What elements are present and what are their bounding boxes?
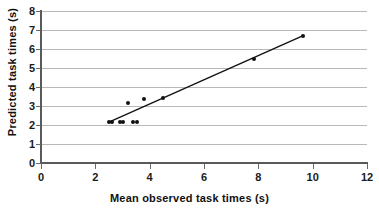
y-axis-tick-label: 4 bbox=[21, 82, 35, 93]
y-axis-tick-label: 1 bbox=[21, 139, 35, 150]
gridline bbox=[41, 30, 367, 31]
y-axis-title: Predicted task times (s) bbox=[6, 0, 18, 147]
x-axis-tick bbox=[150, 164, 151, 169]
y-axis-tick bbox=[36, 49, 41, 50]
y-axis-tick bbox=[36, 68, 41, 69]
scatter-chart: 012345678 024681012 Mean observed task t… bbox=[0, 0, 379, 213]
x-axis-tick bbox=[95, 164, 96, 169]
x-axis-tick-label: 10 bbox=[303, 172, 323, 183]
y-axis-tick bbox=[36, 144, 41, 145]
gridline bbox=[41, 49, 367, 50]
plot-area bbox=[41, 11, 367, 163]
y-axis-tick bbox=[36, 30, 41, 31]
x-axis-tick-label: 12 bbox=[357, 172, 377, 183]
y-axis-tick bbox=[36, 87, 41, 88]
data-point bbox=[252, 57, 256, 61]
x-axis-tick-label: 8 bbox=[248, 172, 268, 183]
y-axis-tick bbox=[36, 106, 41, 107]
gridline bbox=[41, 144, 367, 145]
x-axis-title: Mean observed task times (s) bbox=[0, 192, 379, 204]
x-axis-tick-label: 4 bbox=[140, 172, 160, 183]
gridline bbox=[41, 106, 367, 107]
y-axis-tick-label: 3 bbox=[21, 101, 35, 112]
x-axis-tick bbox=[204, 164, 205, 169]
data-point bbox=[301, 34, 305, 38]
x-axis-tick bbox=[367, 164, 368, 169]
y-axis-tick-label: 6 bbox=[21, 44, 35, 55]
y-axis-tick bbox=[36, 11, 41, 12]
x-axis-tick-label: 0 bbox=[31, 172, 51, 183]
gridline bbox=[41, 87, 367, 88]
x-axis-tick-label: 6 bbox=[194, 172, 214, 183]
x-axis-tick bbox=[313, 164, 314, 169]
y-axis-tick-label: 8 bbox=[21, 6, 35, 17]
y-axis-tick-label: 5 bbox=[21, 63, 35, 74]
gridline bbox=[41, 11, 367, 12]
y-axis-tick-label: 7 bbox=[21, 25, 35, 36]
x-axis-tick bbox=[41, 164, 42, 169]
x-axis-tick-label: 2 bbox=[85, 172, 105, 183]
gridline bbox=[41, 125, 367, 126]
x-axis-tick bbox=[258, 164, 259, 169]
gridline bbox=[41, 68, 367, 69]
y-axis-tick bbox=[36, 125, 41, 126]
y-axis-tick-label: 2 bbox=[21, 120, 35, 131]
y-axis-tick-label: 0 bbox=[21, 158, 35, 169]
